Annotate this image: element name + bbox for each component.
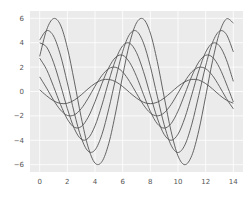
y-tick-label: −2 xyxy=(14,112,24,120)
y-tick-label: −6 xyxy=(14,161,25,169)
x-tick-label: 2 xyxy=(65,178,69,186)
sine-line-chart: 02468101214 6420−2−4−6 xyxy=(0,0,251,197)
x-tick-label: 8 xyxy=(148,178,152,186)
y-tick-label: 6 xyxy=(20,15,25,23)
x-tick-label: 6 xyxy=(120,178,125,186)
x-tick-label: 10 xyxy=(174,178,183,186)
x-axis-tick-labels: 02468101214 xyxy=(37,178,238,186)
y-tick-label: 2 xyxy=(20,64,24,72)
y-tick-label: 4 xyxy=(20,39,25,47)
x-tick-label: 14 xyxy=(229,178,238,186)
y-axis-tick-labels: 6420−2−4−6 xyxy=(14,15,25,169)
y-tick-label: −4 xyxy=(14,137,25,145)
x-tick-label: 12 xyxy=(201,178,210,186)
x-tick-label: 0 xyxy=(37,178,41,186)
y-tick-label: 0 xyxy=(20,88,24,96)
x-tick-label: 4 xyxy=(93,178,98,186)
